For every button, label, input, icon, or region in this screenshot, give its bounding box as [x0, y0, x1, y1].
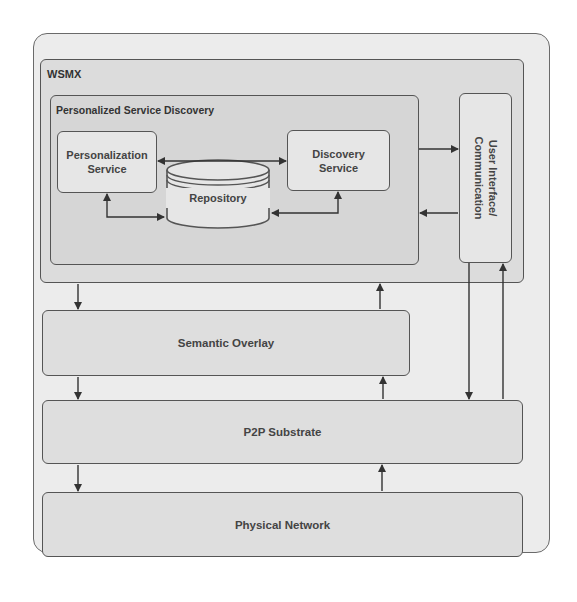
connection-arrows [0, 0, 577, 602]
